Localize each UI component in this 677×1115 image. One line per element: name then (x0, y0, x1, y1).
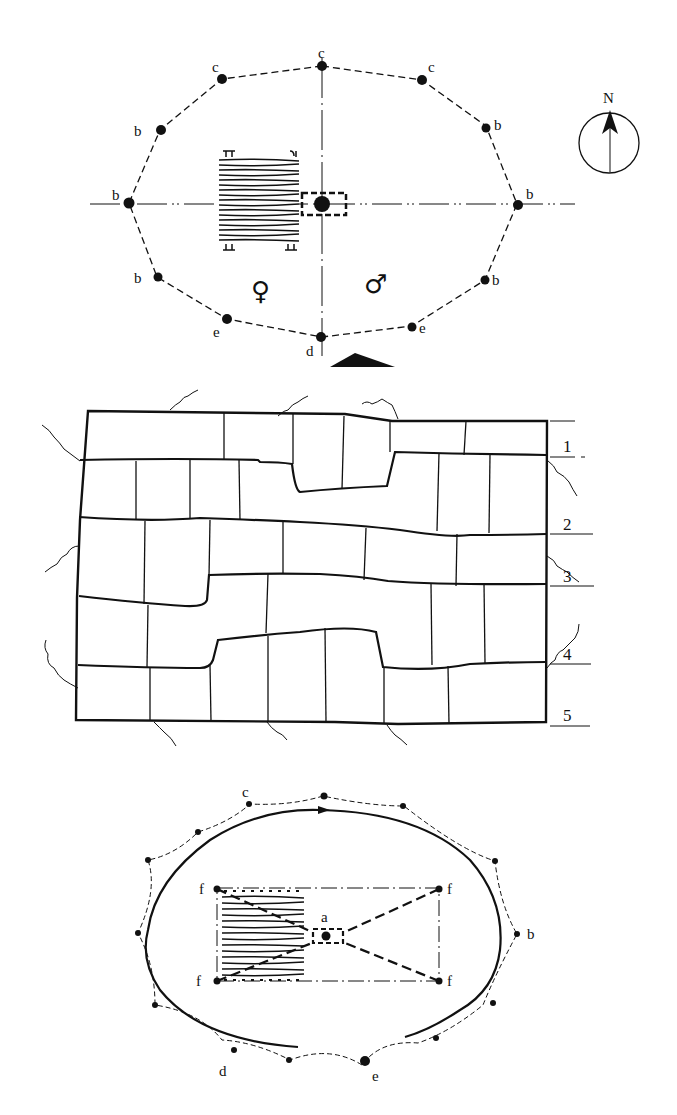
label-c-left: c (212, 59, 219, 75)
bottom-altar-block (222, 891, 304, 980)
bottom-label-f-bottom-left: f (196, 973, 201, 989)
center-point-a (322, 932, 331, 941)
entrance-arrow-icon (330, 353, 395, 367)
label-b-left: b (112, 187, 120, 203)
label-b-lower-left: b (134, 270, 142, 286)
outer-boundary (138, 796, 517, 1065)
label-e-right: e (419, 320, 426, 336)
label-b-upper-right: b (494, 117, 502, 133)
direction-arrow-icon (318, 806, 330, 814)
bottom-label-f-top-right: f (447, 881, 452, 897)
compass-north-label: N (603, 90, 614, 106)
label-c-top: c (318, 45, 325, 61)
grid-outline (76, 411, 547, 724)
terrain-edges (42, 390, 579, 746)
bottom-plan: c b d e a f f f f (135, 784, 535, 1084)
male-symbol: ♂ (364, 269, 387, 299)
bottom-label-f-bottom-right: f (447, 973, 452, 989)
bottom-label-b: b (527, 926, 535, 942)
central-post (314, 196, 330, 212)
label-b-upper-left: b (134, 123, 142, 139)
figure-canvas: c c c b b b b b b e e d ♀ ♂ N (0, 0, 677, 1115)
top-plan: c c c b b b b b b e e d ♀ ♂ N (90, 45, 639, 367)
middle-grid: 1 2 3 4 5 (42, 390, 594, 746)
label-d-bottom: d (306, 343, 314, 359)
row-marker-lines (550, 421, 594, 726)
row-divisions (78, 452, 546, 669)
row-label-1: 1 (563, 437, 572, 456)
bottom-boundary-posts (135, 793, 520, 1067)
north-compass-icon: N (579, 90, 639, 173)
row-label-5: 5 (563, 706, 572, 725)
bottom-label-d: d (219, 1063, 227, 1079)
bottom-label-c: c (242, 784, 249, 800)
row-label-4: 4 (563, 645, 572, 664)
label-b-right: b (526, 186, 534, 202)
bottom-label-f-top-left: f (199, 881, 204, 897)
row-label-2: 2 (563, 515, 572, 534)
label-e-left: e (213, 324, 220, 340)
bottom-label-e: e (372, 1068, 379, 1084)
female-symbol: ♀ (251, 276, 270, 306)
label-c-right: c (428, 59, 435, 75)
altar-block (219, 151, 299, 250)
row-label-3: 3 (563, 567, 572, 586)
label-b-lower-right: b (492, 272, 500, 288)
bottom-label-a: a (321, 909, 328, 925)
